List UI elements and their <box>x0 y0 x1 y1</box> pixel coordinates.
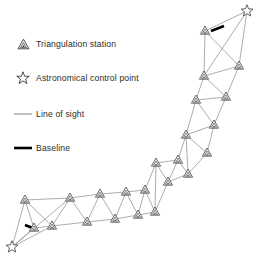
legend-item-astronomical-control-point: Astronomical control point <box>10 70 139 86</box>
triangulation-station-marker <box>47 221 56 229</box>
baseline <box>211 26 224 31</box>
line-of-sight <box>155 182 168 212</box>
astronomical-control-point-marker <box>241 5 253 16</box>
line-of-sight <box>239 11 247 66</box>
triangulation-station-marker <box>140 185 149 193</box>
line-of-sight <box>204 31 205 76</box>
line-of-sight <box>186 125 214 135</box>
triangulation-station-marker <box>82 217 91 225</box>
line-of-sight <box>186 135 188 174</box>
triangulation-diagram: Triangulation station Astronomical contr… <box>0 0 262 262</box>
astronomical-control-point-icon <box>10 70 36 86</box>
line-of-sight <box>52 198 70 226</box>
legend-label-baseline: Baseline <box>36 140 70 156</box>
triangulation-station-marker <box>121 187 130 195</box>
line-of-sight <box>52 222 87 226</box>
legend-item-line-of-sight: Line of sight <box>10 106 84 122</box>
line-of-sight <box>115 192 126 219</box>
line-of-sight <box>12 200 25 247</box>
legend-label-astronomical-control-point: Astronomical control point <box>36 70 139 86</box>
triangulation-station-marker <box>150 207 159 215</box>
triangulation-station-marker <box>200 26 209 34</box>
legend-item-baseline: Baseline <box>10 140 70 156</box>
baseline-icon <box>10 140 36 156</box>
legend-label-line-of-sight: Line of sight <box>36 106 84 122</box>
triangulation-station-marker <box>163 177 172 185</box>
line-of-sight <box>70 198 87 222</box>
triangulation-station-icon <box>10 36 36 52</box>
astronomical-control-point-marker <box>6 241 18 252</box>
triangulation-station-marker <box>191 95 200 103</box>
triangulation-station-marker <box>20 195 29 203</box>
line-of-sight-icon <box>10 106 36 122</box>
triangulation-station-marker <box>65 193 74 201</box>
triangulation-station-marker <box>221 92 230 100</box>
legend-label-triangulation-station: Triangulation station <box>36 36 116 52</box>
legend: Triangulation station Astronomical contr… <box>0 0 185 175</box>
line-of-sight <box>25 198 70 200</box>
line-of-sight <box>87 194 100 222</box>
line-of-sight <box>100 194 115 219</box>
line-of-sight <box>186 100 196 135</box>
legend-item-triangulation-station: Triangulation station <box>10 36 116 52</box>
line-of-sight <box>196 100 214 125</box>
triangulation-station-marker <box>202 148 211 156</box>
line-of-sight <box>214 97 226 125</box>
line-of-sight <box>207 125 214 153</box>
line-of-sight <box>12 198 70 247</box>
triangulation-station-marker <box>95 189 104 197</box>
triangulation-station-marker <box>209 120 218 128</box>
line-of-sight <box>226 66 239 97</box>
